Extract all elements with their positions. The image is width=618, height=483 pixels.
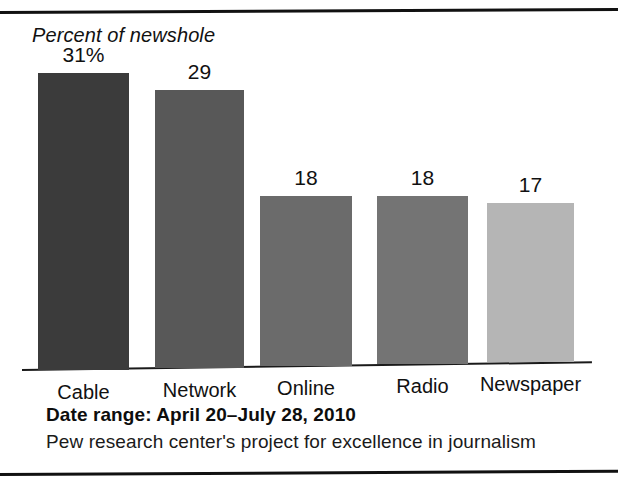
x-tick-label-newspaper: Newspaper	[451, 373, 611, 396]
bar-value-online: 18	[260, 166, 352, 190]
bar-value-radio: 18	[377, 166, 468, 190]
bar-cable	[38, 73, 129, 370]
chart-figure: Percent of newshole 31%Cable29Network18O…	[0, 0, 618, 483]
source-text: Pew research center's project for excell…	[46, 431, 536, 453]
footer-block: Date range: April 20–July 28, 2010 Pew r…	[46, 404, 536, 453]
bar-value-cable: 31%	[38, 43, 129, 67]
bar-radio	[377, 196, 468, 364]
bar-network	[155, 90, 244, 368]
date-range-text: Date range: April 20–July 28, 2010	[46, 404, 536, 426]
bar-value-newspaper: 17	[487, 173, 574, 197]
bar-newspaper	[487, 203, 574, 362]
bar-value-network: 29	[155, 60, 244, 84]
bar-online	[260, 196, 352, 366]
